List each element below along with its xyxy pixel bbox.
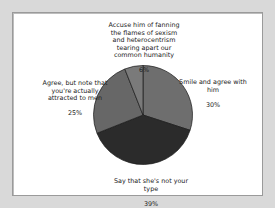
- label-accuse-pct: 6%: [139, 66, 149, 74]
- chart-panel: Accuse him of fanning the flames of sexi…: [12, 12, 263, 196]
- label-agree: Agree, but note that you're actually att…: [37, 73, 113, 117]
- label-smile-text: Smile and agree with him: [179, 78, 247, 93]
- label-say-text: Say that she's not your type: [114, 177, 188, 192]
- label-agree-pct: 25%: [68, 109, 82, 117]
- label-say: Say that she's not your type 39%: [107, 171, 195, 208]
- label-agree-text: Agree, but note that you're actually att…: [43, 79, 108, 102]
- label-say-pct: 39%: [144, 200, 158, 208]
- label-accuse-text: Accuse him of fanning the flames of sexi…: [108, 21, 179, 59]
- label-smile-pct: 30%: [206, 101, 220, 109]
- label-accuse: Accuse him of fanning the flames of sexi…: [96, 15, 192, 74]
- label-smile: Smile and agree with him 30%: [177, 72, 249, 109]
